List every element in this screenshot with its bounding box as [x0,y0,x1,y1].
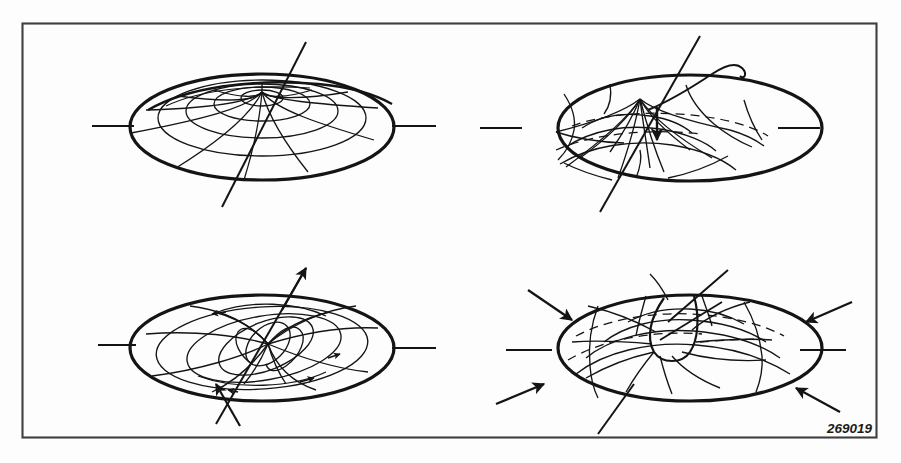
compression-arrow-lower-right [796,388,840,412]
compression-arrow-upper-left [528,290,572,320]
compression-arrow-upper-right [806,302,852,322]
technical-illustration: 269019 [0,0,901,463]
panel-bottom-right [496,270,852,434]
tilted-axis [600,36,700,212]
compression-arrow-lower-left [496,384,544,404]
panel-bottom-left [98,268,436,426]
disk-mesh-twist [130,268,394,426]
panel-top-left [92,42,436,207]
rim-ellipse [558,295,822,401]
shear-arrow-upper [282,268,306,310]
ring-4 [153,300,370,397]
disk-mesh-dimple [496,274,852,412]
part-number-label: 269019 [826,421,873,436]
skirt-ribs [589,296,762,398]
dimple-meridians [572,274,772,394]
wavy-leader-line [648,65,745,110]
hidden-dashed-lines [568,314,784,360]
panel-top-right [480,36,822,212]
figure-container: 269019 [0,0,901,463]
funnel-throat [650,296,698,361]
